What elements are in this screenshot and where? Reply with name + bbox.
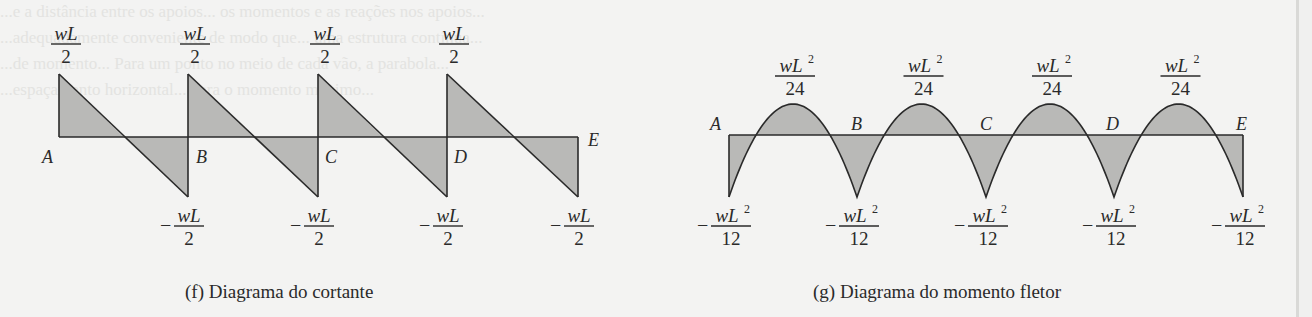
fraction-denominator: 2 [320, 46, 330, 67]
fraction-denominator: 12 [850, 228, 869, 249]
fraction-numerator: wL [442, 23, 465, 44]
minus-sign: − [550, 214, 561, 236]
fraction-numerator: wL [1036, 55, 1059, 76]
fraction-numerator: wL [183, 23, 206, 44]
minus-sign: − [160, 214, 171, 236]
figure-canvas: wL2−wL2wL2−wL2wL2−wL2wL2−wL2ABCDE wL224w… [0, 0, 1312, 317]
moment-max-label: wL224 [904, 52, 944, 99]
fraction-numerator: wL [843, 205, 866, 226]
minus-sign: − [290, 214, 301, 236]
minus-sign: − [1211, 214, 1222, 236]
fraction-denominator: 12 [979, 228, 998, 249]
moment-min-label: −wL212 [825, 202, 879, 249]
fraction-exponent: 2 [1258, 202, 1264, 216]
fraction-numerator: wL [567, 205, 590, 226]
fraction-numerator: wL [779, 55, 802, 76]
support-label-a: A [41, 147, 54, 167]
shear-diagram-caption: (f) Diagrama do cortante [185, 281, 373, 303]
shear-diagram: wL2−wL2wL2−wL2wL2−wL2wL2−wL2ABCDE [41, 23, 599, 249]
moment-min-label: −wL212 [697, 202, 751, 249]
support-label-e: E [587, 130, 599, 150]
fraction-denominator: 24 [786, 78, 806, 99]
fraction-denominator: 2 [61, 46, 71, 67]
support-label-c: C [980, 114, 993, 134]
fraction-numerator: wL [1100, 205, 1123, 226]
moment-diagram: wL224wL224wL224wL224−wL212−wL212−wL212−w… [697, 52, 1265, 249]
support-label-a: A [709, 114, 722, 134]
fraction-exponent: 2 [937, 52, 943, 66]
minus-sign: − [954, 214, 965, 236]
fraction-denominator: 2 [184, 228, 194, 249]
fraction-exponent: 2 [1129, 202, 1135, 216]
fraction-numerator: wL [313, 23, 336, 44]
moment-min-label: −wL212 [1211, 202, 1265, 249]
fraction-numerator: wL [972, 205, 995, 226]
moment-min-label: −wL212 [1082, 202, 1136, 249]
fraction-exponent: 2 [872, 202, 878, 216]
support-label-c: C [325, 147, 338, 167]
fraction-denominator: 2 [574, 228, 584, 249]
fraction-numerator: wL [177, 205, 200, 226]
shear-min-label: −wL2 [290, 205, 334, 249]
moment-diagram-caption: (g) Diagrama do momento fletor [813, 281, 1062, 303]
fraction-denominator: 2 [443, 228, 453, 249]
support-label-d: D [453, 147, 467, 167]
moment-max-label: wL224 [1032, 52, 1072, 99]
fraction-denominator: 2 [190, 46, 200, 67]
fraction-denominator: 24 [914, 78, 934, 99]
moment-max-label: wL224 [1161, 52, 1201, 99]
fraction-exponent: 2 [1001, 202, 1007, 216]
minus-sign: − [419, 214, 430, 236]
fraction-numerator: wL [1165, 55, 1188, 76]
fraction-numerator: wL [436, 205, 459, 226]
fraction-numerator: wL [1229, 205, 1252, 226]
moment-min-label: −wL212 [954, 202, 1008, 249]
shear-min-label: −wL2 [419, 205, 463, 249]
support-label-e: E [1235, 114, 1247, 134]
fraction-exponent: 2 [744, 202, 750, 216]
shear-max-label: wL2 [310, 23, 340, 67]
fraction-numerator: wL [715, 205, 738, 226]
fraction-denominator: 2 [449, 46, 459, 67]
minus-sign: − [697, 214, 708, 236]
fraction-exponent: 2 [808, 52, 814, 66]
shear-max-label: wL2 [51, 23, 81, 67]
fraction-numerator: wL [307, 205, 330, 226]
support-label-d: D [1105, 114, 1119, 134]
fraction-denominator: 24 [1043, 78, 1063, 99]
fraction-denominator: 24 [1171, 78, 1191, 99]
shear-min-label: −wL2 [550, 205, 594, 249]
fraction-denominator: 2 [314, 228, 324, 249]
fraction-denominator: 12 [722, 228, 741, 249]
shear-min-label: −wL2 [160, 205, 204, 249]
fraction-denominator: 12 [1236, 228, 1255, 249]
moment-max-label: wL224 [775, 52, 815, 99]
support-label-b: B [851, 114, 862, 134]
fraction-numerator: wL [54, 23, 77, 44]
minus-sign: − [1082, 214, 1093, 236]
fraction-numerator: wL [908, 55, 931, 76]
minus-sign: − [825, 214, 836, 236]
shear-max-label: wL2 [180, 23, 210, 67]
fraction-denominator: 12 [1107, 228, 1126, 249]
support-label-b: B [196, 147, 207, 167]
shear-max-label: wL2 [439, 23, 469, 67]
fraction-exponent: 2 [1194, 52, 1200, 66]
fraction-exponent: 2 [1065, 52, 1071, 66]
